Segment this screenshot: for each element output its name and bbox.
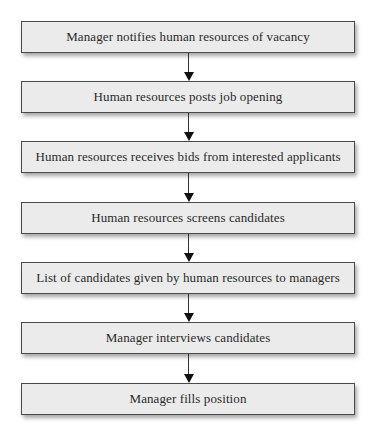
step-box-7: Manager fills position [21,383,355,415]
down-arrow-icon [188,53,190,81]
down-arrow-icon [188,354,190,383]
step-box-2: Human resources posts job opening [21,81,355,113]
step-box-1: Manager notifies human resources of vaca… [21,21,355,53]
step-box-5: List of candidates given by human resour… [21,262,355,294]
step-label: Manager notifies human resources of vaca… [66,29,310,45]
down-arrow-icon [188,234,190,262]
step-label: Manager interviews candidates [106,330,271,346]
step-label: Manager fills position [129,391,246,407]
down-arrow-icon [188,113,190,141]
step-box-4: Human resources screens candidates [21,202,355,234]
step-label: Human resources posts job opening [94,89,283,105]
step-label: Human resources screens candidates [91,210,285,226]
step-box-3: Human resources receives bids from inter… [21,141,355,173]
down-arrow-icon [188,173,190,202]
down-arrow-icon [188,294,190,322]
step-label: List of candidates given by human resour… [36,270,340,286]
step-label: Human resources receives bids from inter… [35,149,340,165]
step-box-6: Manager interviews candidates [21,322,355,354]
